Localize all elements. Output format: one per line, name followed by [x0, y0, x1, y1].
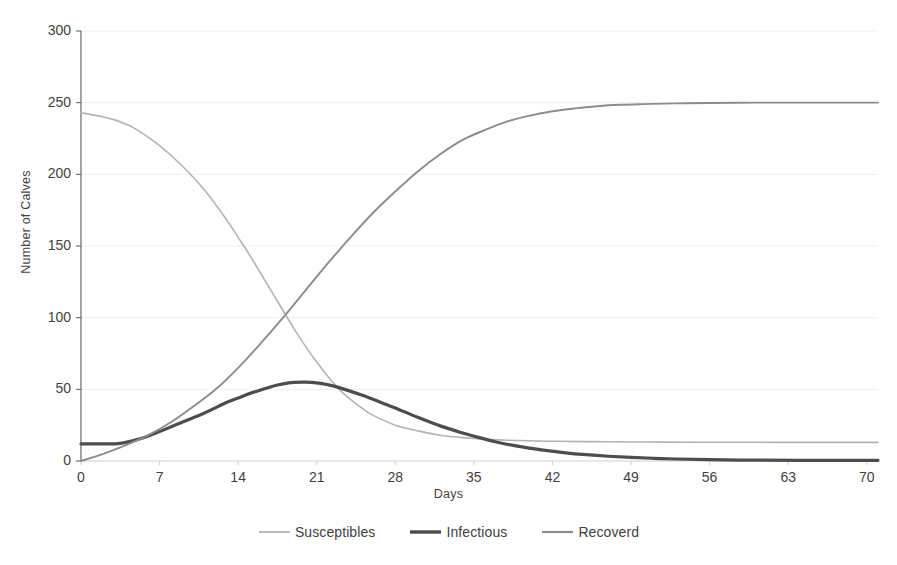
- y-tick-label: 200: [27, 165, 71, 181]
- y-tick-label: 50: [27, 380, 71, 396]
- x-tick-label: 70: [837, 469, 897, 485]
- x-tick-label: 14: [208, 469, 268, 485]
- axis-ticks: [76, 31, 867, 465]
- y-tick-label: 150: [27, 237, 71, 253]
- legend-line-swatch-icon: [258, 526, 291, 538]
- series-line-infectious: [81, 382, 878, 460]
- data-series: [81, 103, 878, 461]
- legend-label: Recoverd: [578, 524, 639, 540]
- x-tick-label: 28: [365, 469, 425, 485]
- legend-line-swatch-icon: [541, 526, 574, 538]
- y-tick-label: 300: [27, 22, 71, 38]
- x-tick-label: 49: [601, 469, 661, 485]
- x-axis-title: Days: [0, 487, 897, 501]
- legend-item[interactable]: Recoverd: [541, 524, 639, 540]
- legend-label: Infectious: [446, 524, 507, 540]
- series-line-recoverd: [81, 103, 878, 461]
- legend-line-swatch-icon: [409, 526, 442, 538]
- x-tick-label: 0: [51, 469, 111, 485]
- legend-item[interactable]: Susceptibles: [258, 524, 376, 540]
- y-tick-label: 250: [27, 94, 71, 110]
- x-tick-label: 35: [444, 469, 504, 485]
- y-tick-label: 100: [27, 309, 71, 325]
- chart-legend: SusceptiblesInfectiousRecoverd: [0, 524, 897, 540]
- x-tick-label: 56: [680, 469, 740, 485]
- x-tick-label: 63: [758, 469, 818, 485]
- series-line-susceptibles: [81, 113, 878, 443]
- x-tick-label: 42: [522, 469, 582, 485]
- legend-item[interactable]: Infectious: [409, 524, 507, 540]
- gridlines: [81, 31, 878, 389]
- x-tick-label: 21: [287, 469, 347, 485]
- legend-label: Susceptibles: [295, 524, 376, 540]
- chart-container: Number of Calves Days 300250200150100500…: [0, 0, 897, 565]
- x-tick-label: 7: [130, 469, 190, 485]
- y-tick-label: 0: [27, 452, 71, 468]
